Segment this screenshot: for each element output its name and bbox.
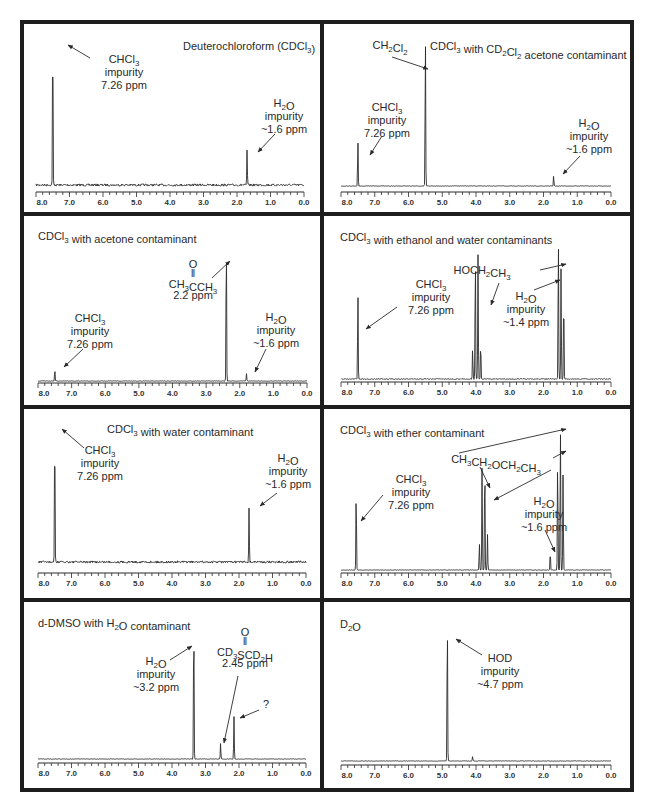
- annotation-label: impurity: [481, 665, 520, 677]
- x-tick-label: 5.0: [437, 388, 449, 397]
- annotation-label: impurity: [137, 668, 176, 680]
- annotation-arrow: [545, 530, 555, 552]
- x-tick-label: 0.0: [605, 771, 617, 780]
- x-tick-label: 2.0: [231, 198, 243, 207]
- annotation-label: impurity: [570, 130, 609, 142]
- x-tick-label: 6.0: [403, 771, 415, 780]
- x-tick-label: 1.0: [268, 389, 280, 398]
- x-tick-label: 8.0: [36, 198, 48, 207]
- annotation-arrow: [534, 280, 560, 290]
- annotation-label: CH2Cl2: [372, 39, 407, 57]
- x-tick-label: 2.0: [233, 769, 245, 778]
- panel-ethanol: 8.07.06.05.04.03.02.01.00.0CDCl3 with et…: [340, 231, 617, 397]
- panel-cdcl3: 8.07.06.05.04.03.02.01.00.0Deuterochloro…: [36, 40, 315, 207]
- annotation-label: ‖: [243, 635, 248, 647]
- x-tick-label: 0.0: [301, 389, 313, 398]
- x-tick-label: 3.0: [200, 579, 212, 588]
- x-tick-label: 2.0: [538, 388, 550, 397]
- x-tick-label: 4.0: [470, 579, 482, 588]
- annotation-arrow: [366, 307, 397, 329]
- annotation-arrow: [260, 493, 277, 506]
- annotation-label: 7.26 ppm: [388, 499, 434, 511]
- annotation-label: ~3.2 ppm: [133, 681, 179, 693]
- panel-title: CDCl3 with water contaminant: [107, 423, 253, 438]
- x-tick-label: 4.0: [470, 388, 482, 397]
- annotation-arrow: [491, 283, 499, 305]
- annotation-arrow: [240, 710, 259, 718]
- x-tick-label: 1.0: [572, 771, 584, 780]
- annotation-label: impurity: [71, 325, 110, 337]
- x-tick-label: 4.0: [470, 198, 482, 207]
- annotation-arrow: [392, 57, 428, 69]
- panel-title: CDCl3 with ether contaminant: [340, 424, 484, 439]
- x-tick-label: 6.0: [100, 389, 112, 398]
- x-tick-label: 4.0: [166, 769, 178, 778]
- annotation-label: impurity: [368, 114, 407, 126]
- x-tick-label: 1.0: [572, 198, 584, 207]
- annotation-arrow: [563, 156, 580, 174]
- annotation-arrow: [456, 639, 482, 655]
- x-tick-label: 4.0: [167, 389, 179, 398]
- annotation-label: HOD: [488, 652, 513, 664]
- x-tick-label: 7.0: [66, 389, 78, 398]
- x-tick-label: 5.0: [131, 198, 143, 207]
- annotation-label: impurity: [392, 486, 431, 498]
- x-tick-label: 3.0: [198, 198, 210, 207]
- annotation-arrow: [494, 470, 551, 500]
- x-tick-label: 6.0: [97, 198, 109, 207]
- panel-title: D2O: [340, 618, 361, 633]
- x-tick-label: 5.0: [437, 198, 449, 207]
- x-tick-label: 7.0: [369, 198, 381, 207]
- x-tick-label: 3.0: [504, 579, 516, 588]
- panel-title: Deuterochloroform (CDCl3): [183, 40, 315, 55]
- x-tick-label: 8.0: [341, 771, 353, 780]
- annotation-label: ~1.6 ppm: [265, 478, 311, 490]
- x-tick-label: 0.0: [605, 198, 617, 207]
- annotation-label: 7.26 ppm: [101, 79, 147, 91]
- annotation-label: 2.45 ppm: [222, 657, 268, 669]
- annotation-label: ~1.6 ppm: [566, 143, 612, 155]
- panel-title: d-DMSO with H2O contaminant: [38, 617, 190, 632]
- annotation-label: ~1.4 ppm: [503, 316, 549, 328]
- x-tick-label: 2.0: [538, 198, 550, 207]
- annotation-label: impurity: [412, 291, 451, 303]
- annotation-label: ~1.6 ppm: [261, 123, 307, 135]
- annotation-label: ‖: [191, 267, 196, 279]
- x-tick-label: 7.0: [369, 579, 381, 588]
- annotation-arrow: [212, 261, 230, 278]
- panel-title: CDCl3 with ethanol and water contaminant…: [340, 231, 553, 246]
- panel-water: 8.07.06.05.04.03.02.01.00.0CDCl3 with wa…: [38, 423, 312, 588]
- annotation-label: 7.26 ppm: [67, 338, 113, 350]
- x-tick-label: 0.0: [300, 579, 312, 588]
- x-tick-label: 8.0: [38, 389, 50, 398]
- annotation-label: impurity: [105, 66, 144, 78]
- x-tick-label: 7.0: [66, 769, 78, 778]
- annotation-arrow: [553, 451, 566, 458]
- x-tick-label: 2.0: [538, 579, 550, 588]
- annotation-arrow: [170, 646, 192, 660]
- x-tick-label: 3.0: [200, 769, 212, 778]
- x-tick-label: 0.0: [298, 198, 310, 207]
- annotation-label: impurity: [269, 465, 308, 477]
- figure-canvas: 8.07.06.05.04.03.02.01.00.0Deuterochloro…: [0, 0, 652, 811]
- annotation-label: impurity: [525, 508, 564, 520]
- annotation-label: 7.26 ppm: [408, 304, 454, 316]
- figure-frame: [22, 22, 632, 790]
- x-tick-label: 5.0: [133, 579, 145, 588]
- panel-title: CDCl3 with CD2Cl2 acetone contaminant: [430, 40, 627, 61]
- x-tick-label: 5.0: [133, 389, 145, 398]
- x-tick-label: 1.0: [267, 579, 279, 588]
- x-tick-label: 0.0: [300, 769, 312, 778]
- x-tick-label: 3.0: [201, 389, 213, 398]
- spectra-panels: 8.07.06.05.04.03.02.01.00.0Deuterochloro…: [36, 39, 627, 780]
- annotation-label: ~4.7 ppm: [477, 678, 523, 690]
- annotation-arrow: [68, 45, 90, 58]
- annotation-arrow: [64, 349, 83, 367]
- x-tick-label: 6.0: [99, 769, 111, 778]
- annotation-label: CH3CH2OCH2CH3: [451, 453, 541, 477]
- x-tick-label: 7.0: [369, 388, 381, 397]
- annotation-label: ~1.6 ppm: [253, 337, 299, 349]
- x-tick-label: 0.0: [605, 388, 617, 397]
- annotation-label: 2.2 ppm: [173, 289, 213, 301]
- x-tick-label: 2.0: [538, 771, 550, 780]
